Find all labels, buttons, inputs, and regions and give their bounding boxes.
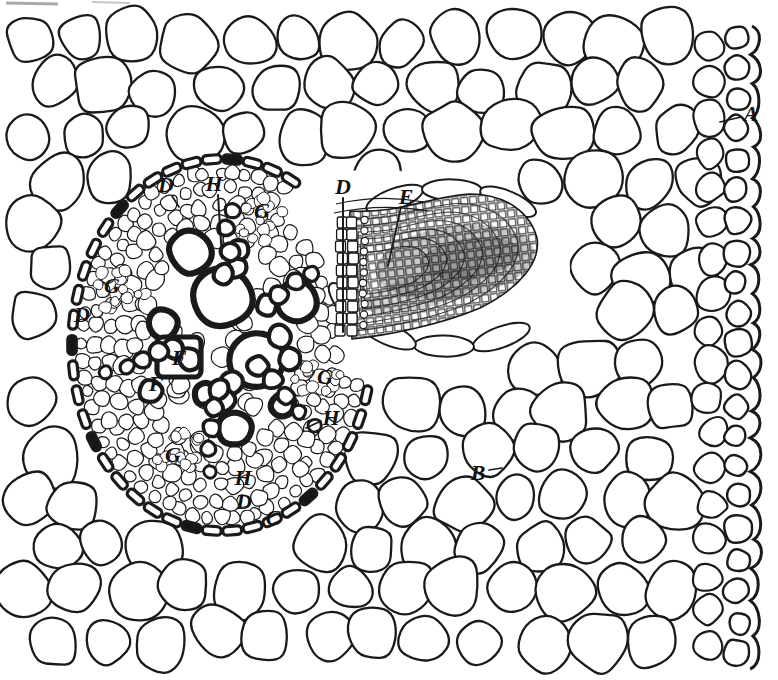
label-d-6: D [235,489,252,514]
label-g-11: G [104,273,120,298]
label-g-13: G [165,442,181,467]
figure-page: ABCDDDDEFFGGGGHHH [0,0,778,680]
label-e-7: E [398,184,414,209]
label-d-5: D [334,174,351,199]
scan-artifacts [6,2,130,4]
label-h-15: H [321,405,340,430]
label-c-2: C [266,505,281,530]
label-h-16: H [233,465,252,490]
label-b-1: B [470,460,486,485]
root-section-diagram: ABCDDDDEFFGGGGHHH [0,0,778,680]
label-a-0: A [742,101,759,126]
label-f-9: F [148,371,164,396]
label-g-12: G [317,364,333,389]
label-h-14: H [204,171,223,196]
label-f-8: F [171,345,187,370]
label-g-10: G [254,198,270,223]
label-d-3: D [157,172,174,197]
label-d-4: D [73,302,90,327]
